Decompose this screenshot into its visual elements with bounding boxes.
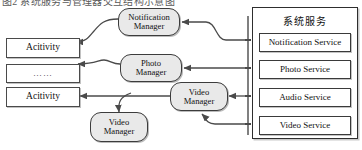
service-box-notification[interactable]: Notification Service <box>259 33 351 52</box>
activity-box-ellipsis-label: …… <box>33 69 53 78</box>
service-box-video[interactable]: Video Service <box>259 116 351 135</box>
service-box-photo-label: Photo Service <box>280 65 330 74</box>
connector-activity-ellipsis-photo-manager <box>78 60 120 64</box>
service-box-audio[interactable]: Audio Service <box>259 88 351 107</box>
notification-manager-node[interactable]: Notification Manager <box>118 8 180 36</box>
video-manager-node[interactable]: Video Manager <box>170 82 228 111</box>
service-box-notification-label: Notification Service <box>269 38 342 47</box>
notification-manager-line2: Manager <box>134 22 165 31</box>
service-box-video-label: Video Service <box>280 121 331 130</box>
connector-notification-service-manager <box>182 22 248 40</box>
video-manager-secondary-line2: Manager <box>104 127 135 136</box>
activity-box-bottom-label: Acitivity <box>26 92 60 102</box>
activity-box-top-label: Acitivity <box>26 43 60 53</box>
system-services-title: 系统服务 <box>253 13 357 28</box>
activity-box-bottom[interactable]: Acitivity <box>6 87 80 107</box>
photo-manager-node[interactable]: Photo Manager <box>120 54 182 82</box>
activity-box-ellipsis[interactable]: …… <box>6 64 80 83</box>
diagram-canvas: 图2 系统服务与管理器交互结构示意图 <box>0 0 362 150</box>
photo-manager-line2: Manager <box>136 68 167 77</box>
service-box-photo[interactable]: Photo Service <box>259 60 351 79</box>
connector-activity-top-notification-manager <box>76 19 118 42</box>
video-manager-secondary-node[interactable]: Video Manager <box>90 112 148 142</box>
service-box-audio-label: Audio Service <box>279 93 331 102</box>
system-services-panel: 系统服务 Notification Service Photo Service … <box>252 7 358 139</box>
connector-video-service-video-manager <box>202 114 248 124</box>
video-manager-line2: Manager <box>184 97 215 106</box>
activity-box-top[interactable]: Acitivity <box>6 38 80 58</box>
